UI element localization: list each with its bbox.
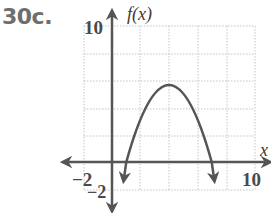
grid — [84, 26, 255, 190]
x-tick-10: 10 — [242, 169, 261, 190]
y-tick-neg2: −2 — [87, 182, 106, 202]
y-axis-label: f(x) — [127, 4, 152, 25]
x-axis-label: x — [259, 140, 268, 160]
parabola-graph: 10 −2 −2 10 x f(x) — [0, 0, 271, 213]
y-tick-10: 10 — [84, 17, 103, 38]
